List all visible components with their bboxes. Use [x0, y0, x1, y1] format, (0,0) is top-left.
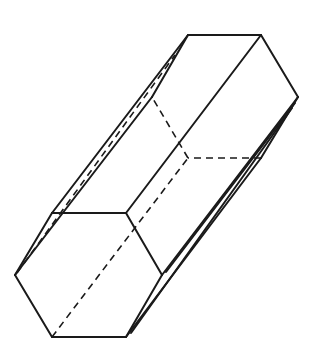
- visible-edge-double: [166, 103, 295, 272]
- visible-edges-group: [15, 35, 298, 337]
- hexagonal-prism-diagram: [0, 0, 310, 360]
- visible-edge: [15, 213, 52, 275]
- prism-diagram-canvas: [0, 0, 310, 360]
- visible-edge: [15, 275, 52, 337]
- visible-edge: [162, 97, 298, 275]
- visible-edge: [15, 97, 152, 275]
- visible-edge-double: [131, 108, 292, 333]
- visible-edge: [126, 213, 162, 275]
- visible-edge: [152, 35, 188, 97]
- visible-edge: [126, 275, 162, 337]
- hidden-edge: [152, 97, 188, 158]
- visible-edge: [261, 35, 298, 97]
